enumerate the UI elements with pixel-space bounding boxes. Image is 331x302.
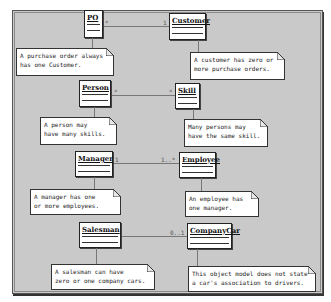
association-po-customer[interactable] (102, 26, 169, 27)
note-connector (94, 107, 95, 117)
class-name: Employee (180, 153, 215, 164)
multiplicity-customer: 1 (163, 20, 167, 26)
operations-divider (178, 103, 197, 104)
association-salesman-companycar[interactable] (120, 236, 187, 237)
operations-divider (82, 100, 108, 101)
note-skill[interactable]: Many persons may have the same skill. (184, 119, 268, 147)
multiplicity-employee: 1..* (161, 157, 175, 163)
note-text-line: A manager has one (34, 192, 117, 201)
note-fold-icon (260, 119, 268, 127)
class-employee[interactable]: Employee (179, 152, 216, 178)
note-connector (198, 40, 199, 52)
note-manager[interactable]: A manager has one or more employees. (30, 189, 121, 215)
class-name: Customer (170, 14, 205, 25)
note-text-line: one manager. (189, 203, 255, 212)
note-customer[interactable]: A customer has zero or more purchase ord… (190, 52, 285, 80)
note-fold-icon (106, 48, 114, 56)
attributes-divider (87, 24, 100, 25)
note-text-line: This object model does not state (192, 269, 312, 278)
multiplicity-person: * (114, 89, 118, 95)
note-text-line: A person may (44, 120, 113, 129)
note-employee[interactable]: An employee has one manager. (185, 191, 259, 217)
multiplicity-companycar: 0..1 (170, 230, 184, 236)
association-manager-employee[interactable] (112, 163, 179, 164)
class-name: Person (80, 81, 110, 92)
attributes-divider (190, 237, 229, 238)
note-text-line: A customer has zero or (194, 55, 281, 64)
operations-divider (78, 171, 110, 172)
attributes-divider (82, 236, 118, 237)
note-text-line: have many skills. (44, 129, 113, 138)
note-fold-icon (109, 117, 117, 125)
class-name: PO (85, 11, 102, 22)
note-text-line: have the same skill. (188, 131, 264, 140)
attributes-divider (172, 27, 203, 28)
note-text-line: has one Customer. (20, 60, 110, 69)
operations-divider (87, 30, 100, 31)
note-connector (92, 38, 93, 49)
class-po[interactable]: PO (84, 10, 103, 38)
class-name: CompanyCar (188, 224, 231, 235)
note-text-line: A purchase order always (20, 51, 110, 60)
multiplicity-po: * (105, 20, 109, 26)
note-person[interactable]: A person may have many skills. (40, 117, 117, 145)
note-text-line: or more employees. (34, 201, 117, 210)
operations-divider (172, 33, 203, 34)
note-text-line: a car's association to drivers. (192, 278, 312, 287)
note-text-line: zero or one company cars. (55, 276, 151, 285)
note-po[interactable]: A purchase order always has one Customer… (16, 48, 114, 76)
multiplicity-manager: 1 (115, 157, 119, 163)
class-name: Salesman (80, 223, 120, 234)
note-text-line: more purchase orders. (194, 64, 281, 73)
class-customer[interactable]: Customer (169, 13, 206, 40)
class-manager[interactable]: Manager (75, 151, 113, 177)
attributes-divider (178, 97, 197, 98)
note-fold-icon (251, 191, 259, 199)
note-connector (197, 249, 198, 266)
class-companycar[interactable]: CompanyCar (187, 223, 232, 249)
note-salesman[interactable]: A salesman can have zero or one company … (51, 264, 155, 290)
class-skill[interactable]: Skill (175, 83, 200, 109)
note-fold-icon (308, 266, 316, 274)
operations-divider (82, 242, 118, 243)
class-name: Skill (176, 84, 199, 95)
note-companycar[interactable]: This object model does not state a car's… (188, 266, 316, 292)
note-fold-icon (147, 264, 155, 272)
note-connector (201, 178, 202, 191)
operations-divider (190, 243, 229, 244)
note-connector (96, 248, 97, 264)
note-connector (193, 109, 194, 119)
multiplicity-skill: * (169, 89, 173, 95)
note-fold-icon (277, 52, 285, 60)
class-person[interactable]: Person (79, 80, 111, 107)
class-name: Manager (76, 152, 112, 163)
attributes-divider (82, 94, 108, 95)
operations-divider (182, 172, 213, 173)
note-text-line: An employee has (189, 194, 255, 203)
note-text-line: A salesman can have (55, 267, 151, 276)
note-text-line: Many persons may (188, 122, 264, 131)
attributes-divider (78, 165, 110, 166)
attributes-divider (182, 166, 213, 167)
note-fold-icon (113, 189, 121, 197)
note-connector (94, 177, 95, 189)
class-salesman[interactable]: Salesman (79, 222, 121, 248)
association-person-skill[interactable] (110, 95, 175, 96)
